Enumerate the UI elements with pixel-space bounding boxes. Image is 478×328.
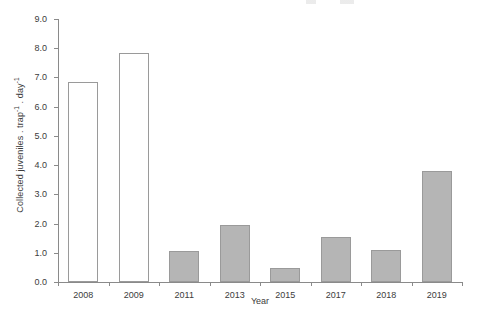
- y-axis-label-exponent1: -1: [13, 106, 20, 112]
- y-axis-label-part2: . day: [15, 83, 25, 106]
- y-tick-mark: [54, 48, 58, 49]
- bar-2015: [270, 268, 300, 282]
- x-axis-label: Year: [58, 296, 462, 306]
- y-tick-mark: [54, 19, 58, 20]
- bar-2017: [321, 237, 351, 282]
- x-tick-mark: [109, 282, 110, 286]
- y-tick-label: 6.0: [34, 102, 47, 112]
- cropped-text-artifact: [288, 0, 368, 4]
- y-tick-label: 3.0: [34, 189, 47, 199]
- x-tick-mark: [462, 282, 463, 286]
- y-tick-label: 7.0: [34, 72, 47, 82]
- y-tick-mark: [54, 165, 58, 166]
- x-tick-mark: [412, 282, 413, 286]
- x-tick-mark: [361, 282, 362, 286]
- y-axis-label-part1: Collected juveniles . trap: [15, 112, 25, 213]
- y-tick-mark: [54, 253, 58, 254]
- bar-2018: [371, 250, 401, 282]
- y-tick-mark: [54, 136, 58, 137]
- y-tick-label: 5.0: [34, 131, 47, 141]
- plot-area: 0.01.02.03.04.05.06.07.08.09.0 200820092…: [58, 19, 462, 282]
- bar-2011: [169, 251, 199, 282]
- y-axis-label-exponent2: -1: [13, 77, 20, 83]
- x-tick-mark: [311, 282, 312, 286]
- y-tick-mark: [54, 77, 58, 78]
- x-tick-mark: [210, 282, 211, 286]
- y-tick-label: 0.0: [34, 277, 47, 287]
- y-tick-label: 9.0: [34, 14, 47, 24]
- y-axis-label-container: Collected juveniles . trap-1 . day-1: [10, 0, 30, 290]
- y-tick-label: 8.0: [34, 43, 47, 53]
- y-tick-mark: [54, 194, 58, 195]
- y-tick-label: 1.0: [34, 248, 47, 258]
- y-tick-label: 2.0: [34, 219, 47, 229]
- y-tick-mark: [54, 224, 58, 225]
- y-tick-mark: [54, 107, 58, 108]
- chart-figure: Collected juveniles . trap-1 . day-1 0.0…: [0, 0, 478, 328]
- y-axis-line: [58, 19, 59, 282]
- y-axis-label: Collected juveniles . trap-1 . day-1: [15, 77, 25, 212]
- y-tick-label: 4.0: [34, 160, 47, 170]
- x-tick-mark: [260, 282, 261, 286]
- bar-2008: [68, 82, 98, 282]
- x-tick-mark: [159, 282, 160, 286]
- x-tick-mark: [58, 282, 59, 286]
- bar-2019: [422, 171, 452, 282]
- bar-2013: [220, 225, 250, 282]
- bar-2009: [119, 53, 149, 282]
